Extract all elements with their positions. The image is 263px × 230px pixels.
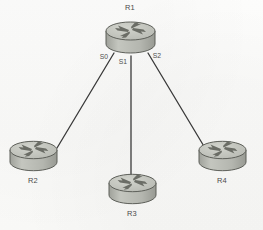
interface-label-s0: S0 — [100, 53, 109, 60]
router-icon-r3[interactable] — [107, 172, 158, 207]
router-label-r4: R4 — [217, 176, 227, 185]
router-label-r3: R3 — [127, 209, 137, 218]
router-icon-r2[interactable] — [8, 139, 59, 174]
topology-diagram: R1 R2 — [0, 0, 263, 230]
router-icon-r1[interactable] — [104, 20, 157, 56]
link-r1-r4 — [148, 53, 205, 148]
interface-label-s2: S2 — [153, 52, 162, 59]
router-icon-r4[interactable] — [197, 139, 248, 174]
router-label-r2: R2 — [28, 176, 38, 185]
router-label-r1: R1 — [125, 3, 135, 12]
link-r1-r2 — [57, 53, 114, 148]
interface-label-s1: S1 — [119, 58, 128, 65]
